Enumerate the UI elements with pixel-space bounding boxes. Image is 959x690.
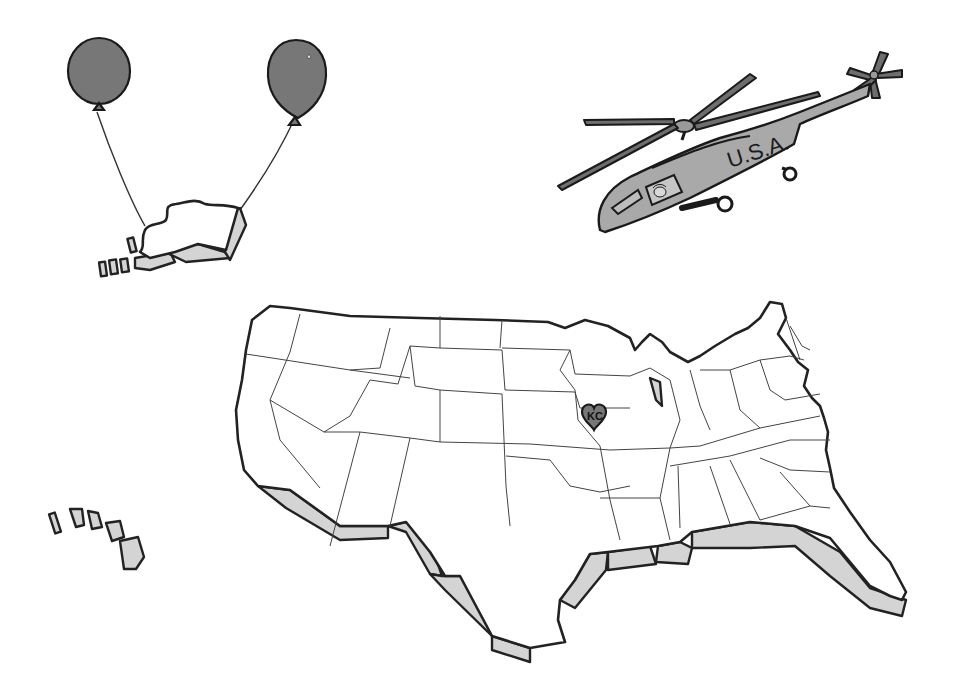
balloons-with-alaska xyxy=(0,0,360,290)
island-maui xyxy=(106,521,124,541)
helicopter-icon: U.S.A. xyxy=(550,40,910,240)
hawaii-islands xyxy=(40,495,160,585)
balloon-right-icon xyxy=(268,40,326,125)
balloon-string-right xyxy=(240,120,294,210)
balloon-left-icon xyxy=(68,38,130,110)
balloon-string-left xyxy=(97,112,145,226)
alaska-shape xyxy=(99,201,246,277)
island-kauai xyxy=(49,513,61,534)
balloons-alaska-svg xyxy=(0,0,360,290)
hawaii-svg xyxy=(40,495,160,585)
island-oahu xyxy=(70,509,84,527)
contiguous-us-map: KC xyxy=(230,290,930,670)
helicopter: U.S.A. xyxy=(550,40,910,240)
kc-label: KC xyxy=(587,410,603,422)
island-molokai xyxy=(88,511,102,529)
us-map-svg: KC xyxy=(230,290,930,670)
island-big-island xyxy=(120,537,144,569)
aleutian-islands xyxy=(99,237,137,276)
